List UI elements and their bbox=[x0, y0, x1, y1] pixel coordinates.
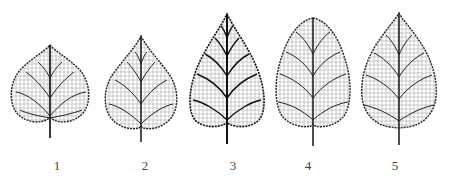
leaf-illustration-5 bbox=[360, 11, 438, 147]
leaf-label-4: 4 bbox=[298, 158, 318, 174]
leaf-illustration-1 bbox=[10, 42, 92, 140]
leaf-illustration-4 bbox=[274, 16, 352, 148]
leaf-illustration-2 bbox=[103, 34, 179, 144]
leaf-illustration-3 bbox=[189, 12, 265, 146]
leaf-label-3: 3 bbox=[223, 158, 243, 174]
leaf-label-1: 1 bbox=[47, 158, 67, 174]
leaf-label-5: 5 bbox=[385, 158, 405, 174]
leaf-label-2: 2 bbox=[135, 158, 155, 174]
